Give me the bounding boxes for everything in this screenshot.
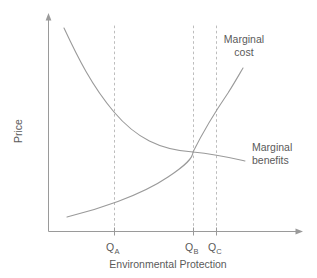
- marginal-benefits-label-line2: benefits: [252, 154, 289, 166]
- chart-figure: Price Environmental Protection Marginal …: [0, 0, 317, 278]
- tick-label-qc: Q C: [208, 241, 222, 256]
- y-axis-arrow-icon: [46, 13, 52, 21]
- tick-label-qc-subscript: C: [216, 247, 222, 256]
- marginal-cost-label-line2: cost: [234, 46, 253, 58]
- tick-label-qa-subscript: A: [114, 247, 119, 256]
- tick-label-qb-subscript: B: [193, 247, 198, 256]
- marginal-benefits-label-line1: Marginal: [252, 141, 292, 153]
- x-axis-label: Environmental Protection: [109, 258, 226, 270]
- tick-label-qb-base: Q: [185, 241, 193, 253]
- marginal-cost-label-line1: Marginal: [224, 33, 264, 45]
- marginal-benefits-curve: [64, 28, 245, 161]
- y-axis-label: Price: [12, 119, 24, 143]
- x-axis-arrow-icon: [296, 229, 304, 235]
- marginal-cost-label: Marginal cost: [224, 33, 264, 58]
- economics-chart: Price Environmental Protection Marginal …: [0, 0, 317, 278]
- tick-label-qb: Q B: [185, 241, 199, 256]
- tick-label-qc-base: Q: [208, 241, 216, 253]
- marginal-benefits-label: Marginal benefits: [252, 141, 292, 166]
- x-axis: [49, 229, 304, 235]
- y-axis: [46, 13, 52, 232]
- tick-label-qa: Q A: [106, 241, 120, 256]
- tick-label-qa-base: Q: [106, 241, 114, 253]
